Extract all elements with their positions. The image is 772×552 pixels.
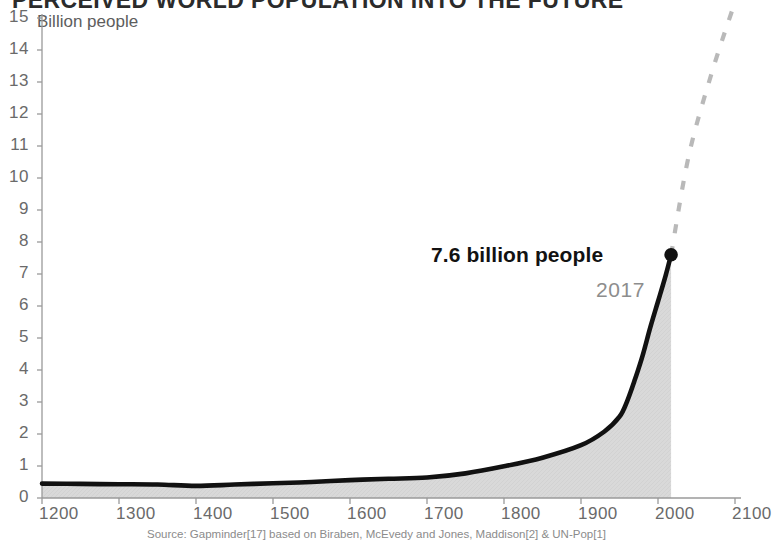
- x-tick-label: 1400: [193, 504, 233, 524]
- x-tick-label: 1500: [270, 504, 310, 524]
- x-tick-label: 1300: [116, 504, 156, 524]
- y-tick-label: 7: [3, 263, 29, 283]
- source-note: Source: Gapminder[17] based on Biraben, …: [0, 528, 753, 540]
- y-tick-label: 10: [3, 167, 29, 187]
- y-tick-label: 15: [3, 7, 29, 27]
- y-tick-label: 12: [3, 103, 29, 123]
- annotation-value-label: 7.6 billion people: [431, 243, 603, 267]
- x-tick-label: 1200: [39, 504, 79, 524]
- x-tick-label: 1700: [424, 504, 464, 524]
- x-tick-label: 2100: [732, 504, 772, 524]
- x-tick-label: 1600: [347, 504, 387, 524]
- x-tick-label: 2000: [655, 504, 695, 524]
- y-tick-label: 3: [3, 391, 29, 411]
- x-tick-label: 1800: [501, 504, 541, 524]
- y-tick-label: 11: [3, 135, 29, 155]
- y-tick-label: 8: [3, 231, 29, 251]
- y-tick-label: 9: [3, 199, 29, 219]
- y-tick-label: 5: [3, 327, 29, 347]
- y-tick-label: 14: [3, 39, 29, 59]
- annotation-year-label: 2017: [596, 278, 645, 302]
- y-tick-label: 1: [3, 455, 29, 475]
- y-tick-label: 4: [3, 359, 29, 379]
- y-tick-label: 0: [3, 487, 29, 507]
- endpoint-marker: [664, 248, 678, 262]
- y-tick-label: 13: [3, 71, 29, 91]
- projection-line: [671, 2, 735, 255]
- x-tick-label: 1900: [578, 504, 618, 524]
- area-fill: [42, 255, 671, 498]
- y-axis-ticks: [37, 18, 42, 498]
- y-tick-label: 6: [3, 295, 29, 315]
- y-tick-label: 2: [3, 423, 29, 443]
